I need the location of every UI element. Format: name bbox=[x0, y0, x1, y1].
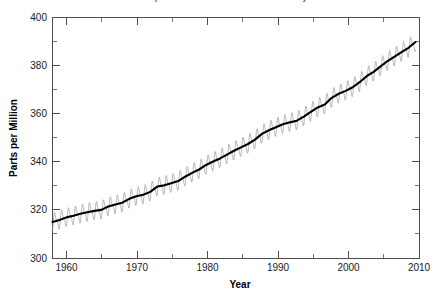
x-tick-label: 1970 bbox=[126, 262, 149, 273]
x-tick-label: 2000 bbox=[337, 262, 360, 273]
x-tick-label: 1960 bbox=[55, 262, 78, 273]
x-tick-label: 1980 bbox=[196, 262, 219, 273]
y-axis-title: Parts per Million bbox=[8, 99, 19, 177]
y-tick-label: 320 bbox=[30, 204, 47, 215]
series-seasonal-co2 bbox=[53, 37, 416, 230]
x-axis-title: Year bbox=[229, 279, 250, 290]
y-tick-label: 360 bbox=[30, 108, 47, 119]
series-trend-co2 bbox=[53, 42, 416, 222]
chart-figure: Atmospheric CO2 at Mauna Loa Observatory bbox=[0, 0, 436, 298]
y-axis-ticks bbox=[53, 18, 419, 259]
x-tick-labels: 1960 1970 1980 1990 2000 2010 bbox=[55, 262, 430, 273]
y-tick-label: 340 bbox=[30, 156, 47, 167]
keeling-curve-plot: 300 320 340 360 380 400 1960 1970 1980 1… bbox=[0, 0, 436, 298]
x-tick-label: 1990 bbox=[267, 262, 290, 273]
y-tick-label: 380 bbox=[30, 60, 47, 71]
y-tick-label: 300 bbox=[30, 253, 47, 264]
plot-frame bbox=[53, 18, 420, 259]
y-tick-label: 400 bbox=[30, 12, 47, 23]
y-tick-labels: 300 320 340 360 380 400 bbox=[30, 12, 47, 264]
x-tick-label: 2010 bbox=[408, 262, 431, 273]
